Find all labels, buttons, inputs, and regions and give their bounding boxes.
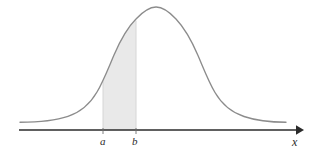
shaded-area-group: [103, 21, 136, 131]
x-axis-arrowhead-icon: [296, 125, 304, 135]
x-axis-name-label: x: [292, 136, 297, 148]
x-axis-group: [19, 125, 304, 135]
axis-tick-label-b: b: [132, 136, 138, 147]
normal-distribution-curve: [20, 7, 286, 122]
shaded-area-between-a-and-b: [103, 21, 136, 131]
distribution-chart-svg: [0, 0, 313, 159]
figure-container: a b x: [0, 0, 313, 159]
axis-tick-label-a: a: [100, 136, 106, 147]
